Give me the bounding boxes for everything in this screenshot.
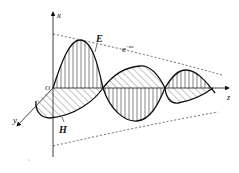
damped-wave-diagram: x y z O E H e−αz	[0, 0, 239, 173]
y-axis-label: y	[12, 115, 17, 125]
stray-dot	[28, 159, 29, 160]
magnetic-field-label: H	[58, 124, 68, 135]
z-axis-label: z	[226, 93, 231, 102]
origin-label: O	[45, 84, 50, 92]
electric-field-label: E	[95, 33, 103, 44]
h-leader-line	[62, 117, 64, 122]
x-axis-label: x	[56, 10, 61, 20]
e-leader-line	[95, 44, 97, 52]
envelope-label: e−αz	[122, 44, 134, 54]
